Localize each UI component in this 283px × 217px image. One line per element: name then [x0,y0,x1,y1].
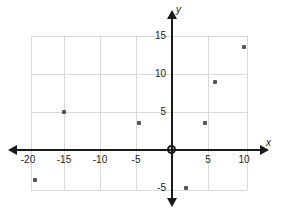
grid-line-vertical [136,36,137,190]
grid-line-vertical [31,36,32,190]
data-point [213,80,217,84]
y-axis-tick-label: -5 [140,182,166,193]
x-axis-tick-label: -10 [85,154,115,165]
x-axis-tick-label: -20 [13,154,43,165]
y-axis-tick-label: 5 [140,106,166,117]
grid-line-vertical [208,36,209,190]
data-point [184,186,188,190]
y-axis-label: y [176,4,181,15]
x-axis-label: x [266,137,271,148]
y-axis-tick-label: 15 [140,30,166,41]
y-axis-arrow-down-icon [167,198,177,207]
scatter-plot-figure: -20-15-10-551015105-5 x y [0,0,283,217]
x-axis-tick-label: 10 [229,154,259,165]
x-axis-tick-label: -5 [121,154,151,165]
origin-marker [167,145,176,154]
data-point [242,45,246,49]
data-point [137,121,141,125]
data-point [203,121,207,125]
x-axis-tick-label: -15 [49,154,79,165]
y-axis-tick-label: 10 [140,68,166,79]
grid-line-vertical [247,36,248,190]
y-axis-line [171,18,173,200]
data-point [62,110,66,114]
data-point [33,178,37,182]
x-axis-line [16,149,262,151]
grid-line-vertical [100,36,101,190]
grid-line-horizontal [31,190,247,191]
x-axis-tick-label: 5 [193,154,223,165]
grid-line-horizontal [31,74,247,75]
grid-line-horizontal [31,36,247,37]
